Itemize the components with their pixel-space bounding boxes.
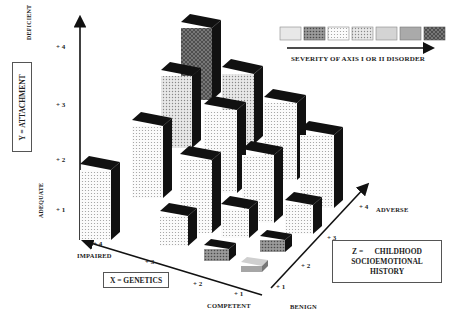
bar-x4-z1: [80, 156, 120, 240]
y-tick-2: + 2: [56, 156, 65, 164]
bar-x2-z1: [204, 239, 236, 261]
bar-x3-z1: [160, 203, 197, 246]
bar-x2-z2: [221, 196, 258, 238]
z-axis-label-line2: SOCIOEMOTIONAL: [351, 257, 423, 267]
y-tick-3: + 3: [56, 101, 65, 109]
x-axis-label: X = GENETICS: [110, 276, 162, 285]
x-tick-1: + 1: [234, 290, 243, 298]
z-axis-label-line3: HISTORY: [370, 267, 404, 277]
y-axis-label: Y = ATTACHMENT: [18, 74, 27, 140]
x-tick-4: + 4: [93, 240, 102, 248]
y-tick-1: + 1: [56, 206, 65, 214]
x-tick-3: + 3: [145, 258, 154, 266]
legend-title: SEVERITY OF AXIS I OR II DISORDER: [291, 55, 425, 63]
y-axis-label-box: Y = ATTACHMENT: [12, 62, 32, 152]
z-high-label: ADVERSE: [376, 206, 408, 213]
y-low-label: ADEQUATE: [38, 183, 44, 218]
x-low-label: COMPETENT: [207, 302, 251, 309]
y-high-label: DEFICIENT: [26, 5, 32, 40]
bar-x1-z2: [260, 230, 292, 252]
bar-x4-z2: [132, 112, 172, 198]
y-tick-4: + 4: [56, 43, 65, 51]
z-tick-4: + 4: [359, 203, 368, 211]
x-axis-label-box: X = GENETICS: [103, 272, 169, 288]
legend-swatches: [280, 27, 445, 40]
x-high-label: IMPAIRED: [77, 252, 112, 259]
x-tick-2: + 2: [193, 280, 202, 288]
z-tick-2: + 2: [301, 262, 310, 270]
z-tick-1: + 1: [276, 283, 285, 291]
z-low-label: BENIGN: [290, 303, 317, 310]
bar-x1-z3: [285, 192, 322, 234]
bar-x1-z1: [241, 257, 268, 272]
z-axis-label-box: Z = CHILDHOOD SOCIOEMOTIONAL HISTORY: [332, 240, 442, 283]
z-axis-label-line1: Z = CHILDHOOD: [352, 247, 422, 257]
